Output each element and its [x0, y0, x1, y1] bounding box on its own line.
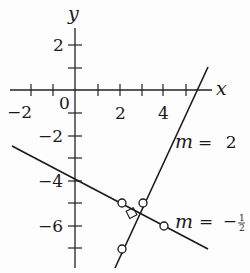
- slope-2-value: = 2: [198, 132, 240, 152]
- slope-neg-half-m: m: [175, 210, 193, 232]
- x-tick-label-2: 2: [115, 103, 126, 123]
- half-denominator: 2: [239, 223, 245, 233]
- half-numerator: 1: [239, 213, 245, 223]
- point-4-neg6: [160, 222, 168, 230]
- origin-label: 0: [59, 93, 70, 113]
- y-tick-label-neg6: −6: [38, 216, 63, 236]
- x-tick-label-4: 4: [158, 103, 169, 123]
- coordinate-plane: y x 0 −2 2 4 2 −2 −4 −6 m = 2 m = − 1 2: [0, 0, 250, 273]
- y-axis-label: y: [67, 2, 79, 24]
- slope-2-m: m: [175, 130, 193, 152]
- point-3-neg5: [139, 199, 147, 207]
- line-slope-2: [115, 67, 208, 268]
- x-tick-label-neg2: −2: [7, 102, 32, 122]
- y-tick-label-neg4: −4: [38, 171, 63, 191]
- point-2-neg5: [118, 199, 126, 207]
- x-axis-label: x: [216, 77, 227, 99]
- slope-neg-half-eq: = −: [199, 211, 239, 231]
- point-2-neg7: [118, 245, 126, 253]
- y-tick-label-2: 2: [53, 35, 64, 55]
- y-tick-label-neg2: −2: [38, 126, 63, 146]
